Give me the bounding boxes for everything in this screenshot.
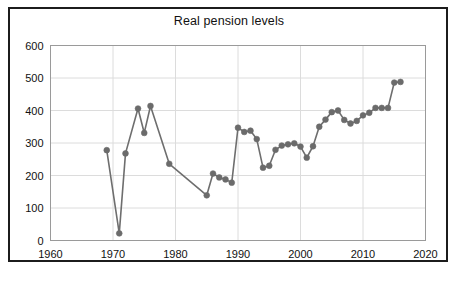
- data-point-marker: [360, 112, 366, 118]
- data-point-marker: [273, 147, 279, 153]
- data-point-marker: [148, 103, 154, 109]
- x-tick-label: 1980: [163, 248, 187, 260]
- data-point-marker: [316, 124, 322, 130]
- data-point-marker: [291, 140, 297, 146]
- y-tick-label: 600: [25, 40, 43, 52]
- data-point-marker: [310, 143, 316, 149]
- data-point-marker: [248, 128, 254, 134]
- x-tick-label: 1990: [226, 248, 250, 260]
- data-point-markers: [104, 79, 404, 236]
- data-point-marker: [329, 109, 335, 115]
- x-tick-label: 2020: [413, 248, 437, 260]
- data-point-marker: [235, 125, 241, 131]
- data-point-marker: [279, 143, 285, 149]
- data-point-marker: [260, 165, 266, 171]
- x-tick-label: 2010: [351, 248, 375, 260]
- data-point-marker: [229, 180, 235, 186]
- data-point-marker: [254, 136, 260, 142]
- data-point-marker: [398, 79, 404, 85]
- y-tick-label: 100: [25, 202, 43, 214]
- chart-figure: Real pension levels 0100200300400500600 …: [0, 0, 458, 282]
- data-point-marker: [354, 118, 360, 124]
- data-point-marker: [223, 177, 229, 183]
- data-point-marker: [385, 105, 391, 111]
- data-point-marker: [341, 117, 347, 123]
- data-point-marker: [204, 192, 210, 198]
- data-point-marker: [123, 151, 129, 157]
- data-point-marker: [348, 121, 354, 127]
- data-point-marker: [104, 147, 110, 153]
- data-point-marker: [304, 155, 310, 161]
- data-point-marker: [216, 175, 222, 181]
- chart-plot-svg: 0100200300400500600 19601970198019902000…: [0, 0, 458, 282]
- y-tick-label: 500: [25, 72, 43, 84]
- y-tick-label: 300: [25, 137, 43, 149]
- data-point-marker: [116, 230, 122, 236]
- x-tick-label: 1960: [38, 248, 62, 260]
- data-point-marker: [366, 110, 372, 116]
- data-point-marker: [323, 117, 329, 123]
- data-point-marker: [166, 161, 172, 167]
- y-tick-label: 0: [37, 235, 43, 247]
- data-point-marker: [241, 129, 247, 135]
- data-point-marker: [379, 105, 385, 111]
- data-point-marker: [210, 171, 216, 177]
- data-point-marker: [298, 144, 304, 150]
- x-tick-label: 1970: [101, 248, 125, 260]
- data-point-marker: [266, 163, 272, 169]
- plot-gridlines: [51, 46, 426, 241]
- data-point-marker: [391, 80, 397, 86]
- x-axis-tick-labels: 1960197019801990200020102020: [38, 248, 437, 260]
- data-point-marker: [335, 108, 341, 114]
- x-tick-label: 2000: [288, 248, 312, 260]
- y-tick-label: 400: [25, 105, 43, 117]
- data-point-marker: [141, 130, 147, 136]
- data-point-marker: [373, 105, 379, 111]
- data-point-marker: [285, 141, 291, 147]
- data-point-marker: [135, 106, 141, 112]
- y-axis-tick-labels: 0100200300400500600: [25, 40, 43, 247]
- y-tick-label: 200: [25, 170, 43, 182]
